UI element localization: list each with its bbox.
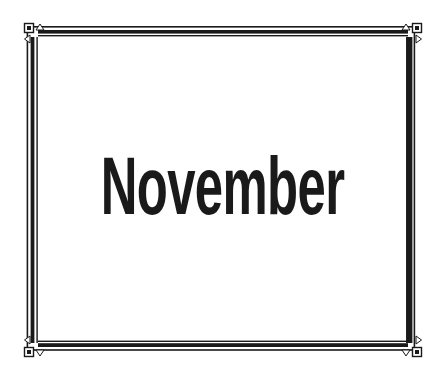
title-container: November <box>0 146 448 226</box>
month-title: November <box>101 145 345 227</box>
november-card: November <box>0 0 448 381</box>
